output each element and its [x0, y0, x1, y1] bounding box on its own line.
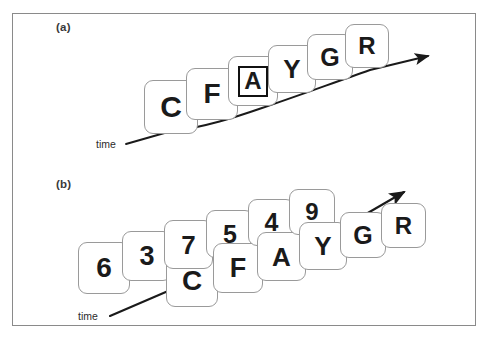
card-glyph: 7 [181, 232, 195, 258]
card-glyph: F [230, 255, 247, 282]
card-glyph: R [395, 214, 412, 238]
card-glyph: C [182, 267, 202, 295]
card-glyph: C [160, 92, 182, 122]
panel-label-b: (b) [56, 178, 71, 190]
card-glyph: R [358, 34, 375, 58]
card-b-g: G [340, 212, 386, 258]
card-glyph: Y [314, 233, 331, 259]
card-a-r: R [345, 24, 389, 68]
panel-b-time-label: time [78, 310, 98, 322]
card-glyph: G [320, 45, 339, 70]
card-glyph: A [272, 244, 291, 270]
figure-root: (a) CFAYGR time (b) 63C75F4A9YGR time [0, 0, 488, 343]
card-glyph: A [238, 66, 267, 97]
card-glyph: G [353, 223, 372, 248]
card-glyph: F [203, 80, 220, 108]
card-glyph: 6 [96, 254, 112, 282]
card-b-r: R [381, 203, 426, 248]
card-glyph: Y [283, 56, 300, 82]
card-glyph: 3 [139, 243, 154, 270]
card-glyph: 9 [305, 200, 318, 224]
card-b-f: F [213, 243, 263, 293]
